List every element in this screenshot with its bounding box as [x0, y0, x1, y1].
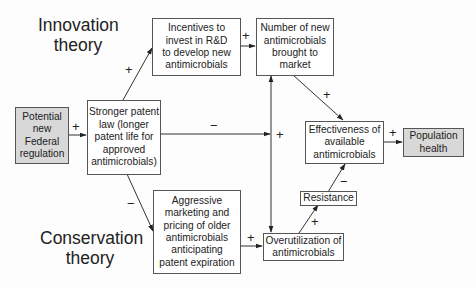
node-new-antimicrobials: Number of new antimicrobials brought to …: [256, 18, 334, 76]
sign-vertical-effectiveness: +: [276, 128, 284, 141]
node-population-health: Population health: [403, 128, 464, 157]
sign-new-effectiveness: +: [323, 88, 331, 101]
sign-effectiveness-health: +: [389, 126, 397, 139]
node-potential-regulation: Potential new Federal regulation: [15, 107, 69, 164]
sign-marketing-overutilization: +: [247, 231, 255, 244]
node-resistance: Resistance: [300, 191, 357, 206]
sign-patent-effectiveness: −: [210, 119, 218, 132]
sign-resistance-effectiveness: −: [340, 175, 348, 188]
sign-regulation-patent: +: [72, 120, 80, 133]
node-overutilization: Overutilization of antimicrobials: [263, 233, 344, 261]
sign-incentives-new: +: [242, 29, 250, 42]
node-aggressive-marketing: Aggressive marketing and pricing of olde…: [153, 190, 241, 274]
node-incentives-rd: Incentives to invest in R&D to develop n…: [152, 18, 241, 76]
sign-overutilization-resistance: +: [311, 215, 319, 228]
sign-patent-incentives: +: [125, 63, 133, 76]
sign-patent-marketing: −: [127, 197, 135, 210]
conservation-theory-label: Conservation theory: [40, 228, 140, 268]
node-stronger-patent-law: Stronger patent law (longer patent life …: [87, 100, 161, 175]
node-effectiveness: Effectiveness of available antimicrobial…: [305, 121, 384, 164]
innovation-theory-label: Innovation theory: [38, 15, 118, 55]
causal-diagram: Innovation theory Conservation theory Po…: [0, 0, 476, 289]
